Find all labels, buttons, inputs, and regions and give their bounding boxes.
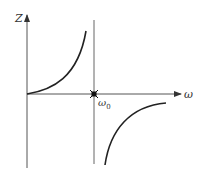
y-axis-label: Z [15,13,23,24]
resonance-label-base: ω [98,97,106,108]
curve-left-branch [27,31,86,94]
x-axis-label: ω [184,89,193,100]
curve-right-branch [105,103,166,165]
impedance-diagram [0,0,202,176]
resonance-label: ω0 [98,98,111,111]
resonance-label-sub: 0 [106,103,110,111]
